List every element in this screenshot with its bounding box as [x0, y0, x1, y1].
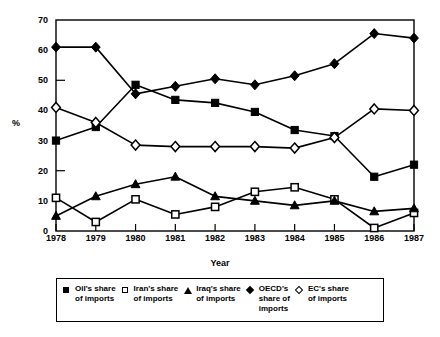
- data-point-marker: [52, 102, 61, 112]
- data-point-marker: [410, 161, 417, 168]
- filled-diamond-icon: [247, 285, 256, 294]
- legend-item: Oil's share of imports: [63, 284, 116, 304]
- legend-item: OECD's share of imports: [247, 284, 290, 314]
- data-point-marker: [52, 194, 59, 201]
- series-filled-diamond: [52, 29, 419, 99]
- data-point-marker: [172, 96, 179, 103]
- open-diamond-icon: [296, 285, 305, 294]
- filled-triangle-icon-glyph: [184, 287, 192, 294]
- data-point-marker: [212, 203, 219, 210]
- data-point-marker: [371, 224, 378, 231]
- open-square-icon-glyph: [122, 287, 128, 293]
- data-point-marker: [291, 126, 298, 133]
- legend-item-label: EC's share of imports: [308, 284, 349, 304]
- legend-item: Iraq's share of imports: [184, 284, 241, 304]
- data-point-marker: [291, 184, 298, 191]
- data-point-marker: [211, 74, 220, 84]
- legend: Oil's share of importsIran's share of im…: [56, 278, 384, 322]
- filled-triangle-icon: [184, 285, 193, 294]
- series-open-diamond: [52, 102, 419, 153]
- series-filled-triangle: [52, 172, 419, 219]
- data-point-marker: [171, 81, 180, 91]
- data-point-marker: [330, 59, 339, 69]
- data-point-marker: [92, 218, 99, 225]
- data-point-marker: [171, 142, 180, 152]
- data-point-marker: [250, 142, 259, 152]
- data-point-marker: [171, 172, 180, 180]
- data-point-marker: [211, 142, 220, 152]
- data-point-marker: [371, 173, 378, 180]
- data-point-marker: [410, 204, 419, 212]
- data-point-marker: [132, 196, 139, 203]
- series-line: [56, 177, 414, 216]
- data-point-marker: [212, 99, 219, 106]
- legend-item: EC's share of imports: [296, 284, 349, 304]
- open-square-icon: [122, 285, 131, 294]
- data-point-marker: [410, 33, 419, 43]
- data-point-marker: [290, 71, 299, 81]
- line-chart: % Year 010203040506070 19781979198019811…: [0, 0, 440, 337]
- data-point-marker: [290, 143, 299, 153]
- data-point-marker: [52, 137, 59, 144]
- filled-diamond-icon-glyph: [246, 286, 254, 294]
- series-filled-square: [52, 81, 417, 180]
- data-point-marker: [52, 211, 61, 219]
- data-point-marker: [211, 192, 220, 200]
- open-diamond-icon-glyph: [295, 286, 303, 294]
- data-point-marker: [251, 108, 258, 115]
- legend-item: Iran's share of imports: [122, 284, 179, 304]
- legend-item-label: Oil's share of imports: [75, 284, 116, 304]
- data-point-marker: [251, 188, 258, 195]
- filled-square-icon-glyph: [63, 287, 69, 293]
- data-point-marker: [131, 140, 140, 150]
- data-point-marker: [250, 80, 259, 90]
- legend-item-label: Iran's share of imports: [134, 284, 179, 304]
- data-point-marker: [172, 211, 179, 218]
- series-line: [56, 107, 414, 148]
- data-point-marker: [132, 81, 139, 88]
- data-point-marker: [410, 105, 419, 115]
- data-point-marker: [370, 104, 379, 114]
- data-point-marker: [370, 29, 379, 39]
- data-point-marker: [52, 42, 61, 52]
- filled-square-icon: [63, 285, 72, 294]
- legend-item-label: Iraq's share of imports: [196, 284, 241, 304]
- legend-item-label: OECD's share of imports: [259, 284, 290, 314]
- series-line: [56, 34, 414, 94]
